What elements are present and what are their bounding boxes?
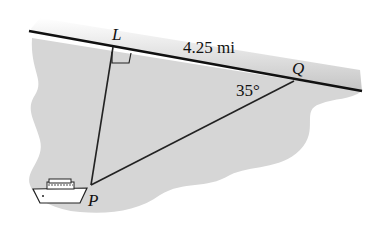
- label-L: L: [111, 25, 121, 44]
- angle-label: 35°: [236, 81, 260, 100]
- distance-label: 4.25 mi: [183, 38, 235, 57]
- boat-shore-diagram: L Q P 4.25 mi 35°: [0, 0, 387, 228]
- label-P: P: [87, 191, 98, 210]
- label-Q: Q: [292, 59, 304, 78]
